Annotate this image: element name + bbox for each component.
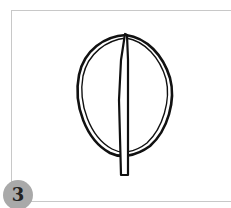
leaf-stem bbox=[119, 34, 128, 175]
step-number: 3 bbox=[12, 184, 25, 205]
leaf-outline-icon bbox=[0, 0, 231, 208]
step-number-badge: 3 bbox=[3, 180, 33, 208]
